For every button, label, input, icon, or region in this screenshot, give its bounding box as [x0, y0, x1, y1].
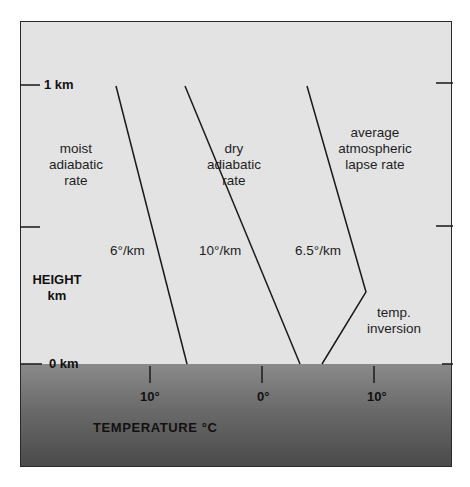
moist-rate-label: 6°/km [110, 243, 145, 259]
avg-label-line2: atmospheric [326, 141, 424, 157]
moist-adiabatic-label: moist adiabatic rate [40, 141, 112, 189]
dry-adiabatic-label: dry adiabatic rate [198, 141, 270, 189]
moist-label-line1: moist [40, 141, 112, 157]
x-axis-title: TEMPERATURE °C [93, 420, 218, 435]
dry-label-line2: adiabatic [198, 157, 270, 173]
inversion-label-line2: inversion [359, 321, 429, 337]
x-tick-label-2: 0° [257, 389, 269, 404]
avg-label-line1: average [326, 125, 424, 141]
avg-label-line3: lapse rate [326, 157, 424, 173]
y-axis-title-line1: HEIGHT [22, 272, 92, 288]
x-tick-label-3: 10° [367, 389, 387, 404]
dry-rate-label: 10°/km [199, 243, 241, 259]
dry-adiabatic-line [185, 86, 300, 364]
x-tick-label-1: 10° [140, 389, 160, 404]
dry-label-line3: rate [198, 173, 270, 189]
y-axis-title: HEIGHT km [22, 272, 92, 304]
moist-label-line3: rate [40, 173, 112, 189]
avg-rate-label: 6.5°/km [295, 243, 341, 259]
temp-inversion-label: temp. inversion [359, 305, 429, 337]
y-label-0km: 0 km [49, 356, 79, 371]
y-label-1km: 1 km [44, 77, 74, 92]
moist-label-line2: adiabatic [40, 157, 112, 173]
y-axis-title-line2: km [22, 288, 92, 304]
moist-adiabatic-line [116, 86, 187, 364]
dry-label-line1: dry [198, 141, 270, 157]
inversion-label-line1: temp. [359, 305, 429, 321]
average-lapse-rate-label: average atmospheric lapse rate [326, 125, 424, 173]
